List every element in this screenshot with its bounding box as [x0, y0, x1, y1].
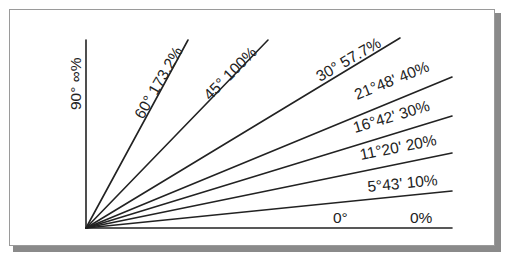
label-45deg: 45° 100%	[200, 43, 260, 103]
label-90deg: 90° ∞%	[67, 57, 84, 110]
label-40: 21°48' 40%	[352, 58, 432, 103]
slope-diagram: 0° 0% 5°43' 10% 11°20' 20% 16°42' 30% 21…	[0, 0, 508, 257]
label-30deg: 30° 57.7%	[313, 34, 384, 85]
label-0-angle: 0°	[333, 209, 348, 226]
ray-10	[86, 191, 452, 228]
label-60deg: 60° 173.2%	[131, 43, 186, 121]
label-10: 5°43' 10%	[367, 171, 439, 195]
label-0-percent: 0%	[410, 209, 433, 226]
